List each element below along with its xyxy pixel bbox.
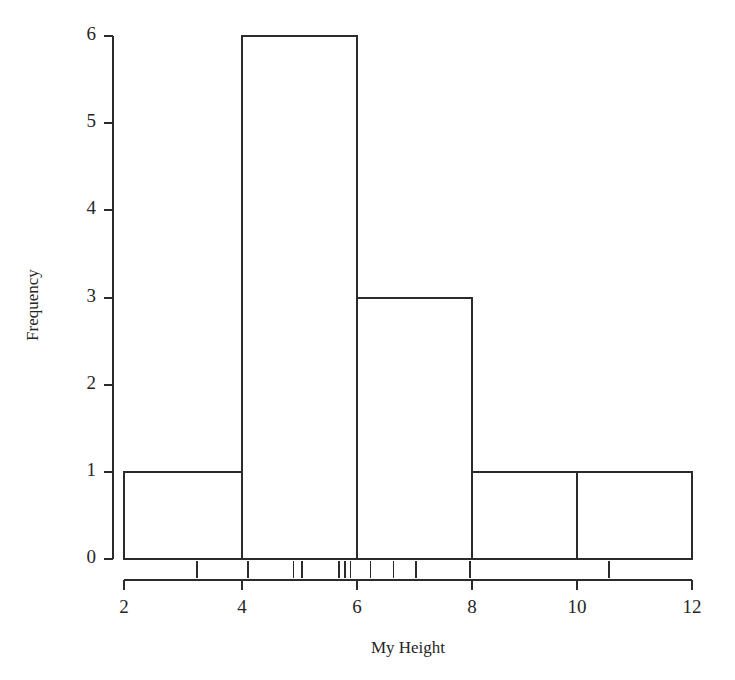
bar-bin-6-8 — [357, 298, 472, 559]
y-axis-title: Frequency — [23, 269, 42, 341]
x-tick-label-10: 10 — [568, 596, 587, 617]
histogram-plot: 6 5 4 3 2 1 0 Frequency — [0, 0, 735, 680]
y-tick-label-6: 6 — [87, 23, 97, 44]
x-tick-marks — [124, 580, 692, 590]
bar-bin-2-4 — [124, 472, 242, 559]
x-tick-label-4: 4 — [237, 596, 247, 617]
x-axis: 2 4 6 8 10 12 My Height — [119, 580, 701, 657]
x-tick-label-2: 2 — [119, 596, 129, 617]
x-tick-label-6: 6 — [352, 596, 362, 617]
histogram-bars — [124, 36, 692, 559]
y-tick-label-4: 4 — [87, 197, 97, 218]
x-axis-title: My Height — [371, 638, 445, 657]
y-tick-label-2: 2 — [87, 372, 97, 393]
bar-bin-8-10 — [472, 472, 577, 559]
bar-bin-10-12 — [577, 472, 692, 559]
rug-plot — [124, 559, 692, 578]
y-axis: 6 5 4 3 2 1 0 Frequency — [23, 23, 113, 567]
y-tick-label-1: 1 — [87, 459, 97, 480]
y-tick-label-5: 5 — [87, 110, 97, 131]
chart-figure: 6 5 4 3 2 1 0 Frequency — [0, 0, 735, 680]
x-tick-label-12: 12 — [683, 596, 702, 617]
y-tick-label-0: 0 — [87, 546, 97, 567]
bar-bin-4-6 — [242, 36, 357, 559]
y-tick-label-3: 3 — [87, 285, 97, 306]
x-tick-label-8: 8 — [467, 596, 477, 617]
y-tick-marks — [104, 36, 113, 559]
